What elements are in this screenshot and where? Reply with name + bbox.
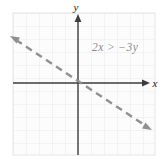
graph-canvas: y x 2x > −3y — [0, 0, 164, 166]
inequality-graph-figure: y x 2x > −3y — [0, 0, 164, 166]
inequality-label: 2x > −3y — [92, 41, 139, 54]
x-axis-label: x — [152, 77, 158, 89]
grid-lines — [13, 13, 155, 155]
y-axis-label: y — [73, 1, 79, 13]
